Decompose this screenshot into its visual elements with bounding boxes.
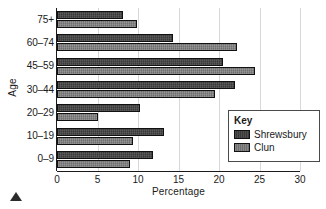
legend-entry: Shrewsbury: [234, 129, 314, 140]
bar-group: [57, 58, 300, 75]
bar-shrewsbury-2029: [57, 104, 140, 112]
y-tick-label: 20–29: [8, 108, 54, 118]
y-tick-label: 10–19: [8, 131, 54, 141]
bar-shrewsbury-1019: [57, 128, 164, 136]
x-tick-label: 25: [247, 174, 273, 185]
bar-shrewsbury-09: [57, 151, 153, 159]
y-tick-label: 75+: [8, 15, 54, 25]
legend-entries: ShrewsburyClun: [234, 129, 314, 153]
bar-clun-6074: [57, 43, 237, 51]
bar-shrewsbury-75+: [57, 11, 123, 19]
bar-group: [57, 34, 300, 51]
bar-clun-2029: [57, 113, 98, 121]
y-tick-label: 45–59: [8, 61, 54, 71]
legend-title: Key: [234, 115, 314, 126]
x-tick-label: 0: [44, 174, 70, 185]
triangle-marker-icon: [10, 192, 22, 201]
x-tick-label: 15: [166, 174, 192, 185]
x-axis-title: Percentage: [57, 186, 300, 197]
x-axis-tick-labels: 051015202530: [57, 172, 300, 186]
y-tick-label: 60–74: [8, 38, 54, 48]
bar-shrewsbury-3044: [57, 81, 235, 89]
bar-clun-75+: [57, 20, 137, 28]
bar-clun-4559: [57, 67, 255, 75]
legend-swatch-icon: [234, 143, 250, 152]
legend-label: Shrewsbury: [254, 129, 307, 140]
bar-shrewsbury-4559: [57, 58, 223, 66]
bar-shrewsbury-6074: [57, 34, 173, 42]
legend-entry: Clun: [234, 142, 314, 153]
x-tick-label: 30: [287, 174, 313, 185]
bar-clun-1019: [57, 137, 133, 145]
legend-swatch-icon: [234, 130, 250, 139]
legend-box: Key ShrewsburyClun: [228, 110, 320, 162]
y-tick-label: 0–9: [8, 154, 54, 164]
x-tick-label: 10: [125, 174, 151, 185]
bar-chart: Age 0–910–1920–2930–4445–5960–7475+ 0510…: [0, 0, 326, 209]
y-axis-tick-labels: 0–910–1920–2930–4445–5960–7475+: [8, 8, 54, 171]
x-tick-label: 20: [206, 174, 232, 185]
bar-group: [57, 11, 300, 28]
bar-group: [57, 81, 300, 98]
bar-clun-3044: [57, 90, 215, 98]
x-tick-label: 5: [85, 174, 111, 185]
legend-label: Clun: [254, 142, 275, 153]
bar-clun-09: [57, 160, 130, 168]
y-tick-label: 30–44: [8, 85, 54, 95]
